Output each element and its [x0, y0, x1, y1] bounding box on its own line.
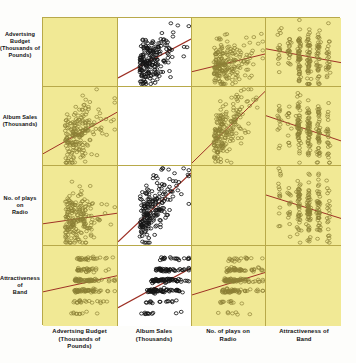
row-label-attract-line-1: Band [0, 289, 40, 296]
panel-sales-vs-advert[interactable] [43, 87, 118, 166]
col-label-radio-line-1: Radio [190, 336, 266, 344]
row-label-radio: No. of plays on Radio [0, 195, 40, 216]
panel-radio-vs-radio[interactable] [192, 166, 266, 246]
panel-plot [266, 18, 341, 86]
row-label-radio-line-0: No. of plays on [0, 195, 40, 209]
panel-radio-vs-sales[interactable] [118, 166, 192, 246]
row-label-advert-line-1: (Thousands of [0, 45, 40, 52]
data-points [138, 167, 191, 244]
col-label-advert-line-0: Advertsing Budget [34, 328, 125, 336]
panel-plot [118, 18, 191, 86]
col-label-attract-line-1: Band [265, 336, 343, 344]
row-label-advert-line-2: Pounds) [0, 52, 40, 59]
panel-plot [118, 166, 191, 245]
panel-attract-vs-radio[interactable] [192, 246, 266, 326]
row-label-attract: Attractiveness of Band [0, 275, 40, 296]
panel-plot [43, 87, 117, 165]
panel-sales-vs-sales[interactable] [118, 87, 192, 166]
col-label-sales-line-0: Album Sales [116, 328, 192, 336]
col-label-radio-line-0: No. of plays on [190, 328, 266, 336]
panel-plot [266, 166, 341, 245]
data-points [276, 91, 332, 164]
data-points [212, 32, 265, 85]
row-label-sales: Album Sales (Thousands) [0, 114, 40, 128]
row-label-advert-line-0: Advertsing Budget [0, 31, 40, 45]
row-label-advert: Advertsing Budget (Thousands of Pounds) [0, 31, 40, 60]
panel-advert-vs-attract[interactable] [266, 18, 341, 87]
col-label-radio: No. of plays on Radio [190, 328, 266, 343]
panel-plot [43, 166, 117, 245]
col-label-advert: Advertsing Budget (Thousands of Pounds) [34, 328, 125, 351]
panel-sales-vs-radio[interactable] [192, 87, 266, 166]
col-label-attract-line-0: Attractiveness of [265, 328, 343, 336]
matrix-grid [42, 17, 340, 325]
panel-advert-vs-advert[interactable] [43, 18, 118, 87]
panel-attract-vs-advert[interactable] [43, 246, 118, 326]
row-label-radio-line-1: Radio [0, 209, 40, 216]
panel-attract-vs-attract[interactable] [266, 246, 341, 326]
panel-radio-vs-advert[interactable] [43, 166, 118, 246]
col-label-sales: Album Sales (Thousands) [116, 328, 192, 343]
col-label-attract: Attractiveness of Band [265, 328, 343, 343]
data-points [63, 88, 116, 164]
row-label-sales-line-1: (Thousands) [0, 121, 40, 128]
panel-advert-vs-sales[interactable] [118, 18, 192, 87]
panel-sales-vs-attract[interactable] [266, 87, 341, 166]
data-points [277, 167, 332, 244]
panel-plot [192, 246, 265, 326]
panel-plot [266, 87, 341, 165]
col-label-advert-line-2: Pounds) [34, 343, 125, 351]
row-label-sales-line-0: Album Sales [0, 114, 40, 121]
data-points [140, 256, 191, 316]
panel-plot [43, 246, 117, 326]
panel-attract-vs-sales[interactable] [118, 246, 192, 326]
scatterplot-matrix-figure: Advertsing Budget (Thousands of Pounds) … [0, 0, 356, 363]
panel-radio-vs-attract[interactable] [266, 166, 341, 246]
data-points [212, 88, 259, 164]
col-label-advert-line-1: (Thousands of [34, 336, 125, 344]
data-points [63, 180, 116, 244]
row-label-attract-line-0: Attractiveness of [0, 275, 40, 289]
data-points [216, 256, 264, 316]
panel-advert-vs-radio[interactable] [192, 18, 266, 87]
panel-plot [192, 87, 265, 165]
data-points [70, 255, 117, 315]
col-label-sales-line-1: (Thousands) [116, 336, 192, 344]
panel-plot [118, 246, 191, 326]
panel-plot [192, 18, 265, 86]
